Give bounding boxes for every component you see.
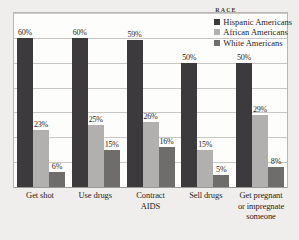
legend-swatch-icon bbox=[214, 29, 220, 35]
bar-value-label: 15% bbox=[105, 140, 119, 149]
x-axis-label-line: or impregnate bbox=[237, 201, 285, 212]
chart-legend: RACE Hispanic AmericansAfrican Americans… bbox=[212, 4, 294, 49]
bar bbox=[159, 147, 175, 187]
x-axis-label-2: Contract AIDS bbox=[127, 190, 175, 222]
bar-value-label: 5% bbox=[216, 165, 226, 174]
bar-value-label: 15% bbox=[198, 140, 212, 149]
bar bbox=[104, 150, 120, 187]
x-axis-label-line: Contract AIDS bbox=[127, 190, 175, 211]
bar-value-label: 25% bbox=[89, 115, 103, 124]
bar bbox=[197, 150, 213, 187]
bar bbox=[72, 38, 88, 187]
x-axis-label-line: Use drugs bbox=[71, 190, 119, 201]
legend-item[interactable]: African Americans bbox=[214, 27, 292, 38]
bar-wrapper: 59% bbox=[127, 13, 143, 187]
bar-value-label: 26% bbox=[143, 112, 157, 121]
bar-value-label: 6% bbox=[52, 162, 62, 171]
x-axis-label-0: Get shot bbox=[16, 190, 64, 222]
legend-label: Hispanic Americans bbox=[223, 17, 292, 28]
bar-group: 60%25%15% bbox=[72, 13, 120, 187]
x-axis-label-line: someone bbox=[237, 211, 285, 222]
bar-value-label: 60% bbox=[18, 28, 32, 37]
legend-label: White Americans bbox=[223, 38, 282, 49]
bar-wrapper: 15% bbox=[104, 13, 120, 187]
bar bbox=[127, 40, 143, 187]
bar bbox=[33, 130, 49, 187]
x-axis-label-line: Sell drugs bbox=[182, 190, 230, 201]
x-axis-label-line: Get pregnant bbox=[237, 190, 285, 201]
bar-wrapper: 60% bbox=[17, 13, 33, 187]
legend-swatch-icon bbox=[214, 40, 220, 46]
bar-value-label: 60% bbox=[73, 28, 87, 37]
bar bbox=[268, 167, 284, 187]
bar bbox=[88, 125, 104, 187]
grouped-bar-chart: 60%23%6%60%25%15%59%26%16%50%15%5%50%29%… bbox=[0, 0, 299, 240]
bar bbox=[49, 172, 65, 187]
bar-value-label: 29% bbox=[253, 105, 267, 114]
bar-wrapper: 23% bbox=[33, 13, 49, 187]
bar-wrapper: 6% bbox=[49, 13, 65, 187]
legend-swatch-icon bbox=[214, 19, 220, 25]
legend-items: Hispanic AmericansAfrican AmericansWhite… bbox=[214, 17, 292, 49]
legend-item[interactable]: White Americans bbox=[214, 38, 292, 49]
x-axis-label-3: Sell drugs bbox=[182, 190, 230, 222]
gridline bbox=[14, 187, 287, 188]
bar bbox=[213, 175, 229, 187]
bar bbox=[143, 122, 159, 187]
bar bbox=[181, 63, 197, 187]
bar-wrapper: 26% bbox=[143, 13, 159, 187]
x-axis-label-4: Get pregnantor impregnatesomeone bbox=[237, 190, 285, 222]
bar-value-label: 59% bbox=[127, 30, 141, 39]
bar-group: 59%26%16% bbox=[127, 13, 175, 187]
bar-wrapper: 50% bbox=[181, 13, 197, 187]
bar-value-label: 50% bbox=[182, 53, 196, 62]
legend-label: African Americans bbox=[223, 27, 287, 38]
legend-title: RACE bbox=[214, 5, 292, 16]
bar-wrapper: 60% bbox=[72, 13, 88, 187]
bar-value-label: 23% bbox=[34, 120, 48, 129]
bar-value-label: 8% bbox=[271, 157, 281, 166]
bar-group: 60%23%6% bbox=[17, 13, 65, 187]
bar-value-label: 50% bbox=[237, 53, 251, 62]
bar-value-label: 16% bbox=[159, 137, 173, 146]
bar bbox=[236, 63, 252, 187]
x-axis-labels: Get shotUse drugsContract AIDSSell drugs… bbox=[13, 190, 288, 222]
bar-wrapper: 16% bbox=[159, 13, 175, 187]
x-axis-label-1: Use drugs bbox=[71, 190, 119, 222]
bar bbox=[252, 115, 268, 187]
legend-item[interactable]: Hispanic Americans bbox=[214, 17, 292, 28]
bar bbox=[17, 38, 33, 187]
x-axis-label-line: Get shot bbox=[16, 190, 64, 201]
bar-wrapper: 25% bbox=[88, 13, 104, 187]
bar-wrapper: 15% bbox=[197, 13, 213, 187]
